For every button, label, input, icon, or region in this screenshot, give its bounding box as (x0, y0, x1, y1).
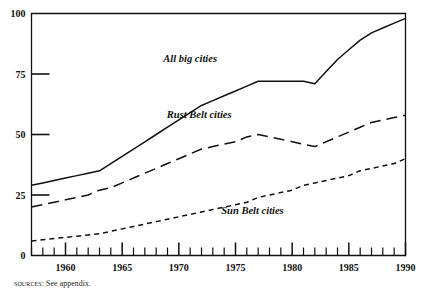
x-tick-label-1990: 1990 (396, 262, 416, 273)
y-tick-label-0: 0 (21, 250, 26, 261)
series-line-0 (32, 18, 406, 185)
source-note-text: See appendix. (46, 279, 91, 288)
x-tick-label-1975: 1975 (226, 262, 246, 273)
x-axis: 1960196519701975198019851990 (32, 243, 416, 273)
y-axis: 0255075100 (11, 8, 50, 261)
line-chart: 0255075100 1960196519701975198019851990 … (0, 0, 423, 298)
series-label-1: Rust Belt cities (166, 109, 232, 120)
y-tick-label-100: 100 (11, 8, 26, 19)
x-tick-label-1980: 1980 (282, 262, 302, 273)
source-note: Sources: See appendix. (14, 279, 91, 288)
x-tick-label-1965: 1965 (112, 262, 132, 273)
chart-figure: 0255075100 1960196519701975198019851990 … (0, 0, 423, 298)
x-tick-label-1970: 1970 (169, 262, 189, 273)
series-label-0: All big cities (162, 53, 217, 64)
series-line-1 (32, 115, 406, 207)
y-tick-label-25: 25 (16, 190, 26, 201)
series-annotations: All big citiesRust Belt citiesSun Belt c… (162, 53, 283, 216)
series-line-2 (32, 159, 406, 241)
series-layer (32, 18, 406, 241)
y-tick-label-75: 75 (16, 69, 26, 80)
x-tick-label-1960: 1960 (56, 262, 76, 273)
y-tick-label-50: 50 (16, 129, 26, 140)
source-note-kicker: Sources: (14, 279, 44, 288)
x-tick-label-1985: 1985 (339, 262, 359, 273)
series-label-2: Sun Belt cities (221, 205, 283, 216)
